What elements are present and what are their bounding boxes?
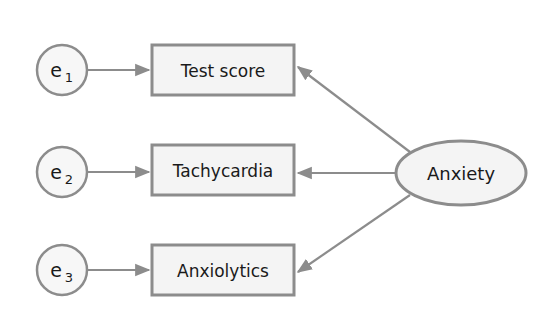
svg-text:e: e xyxy=(50,161,62,183)
svg-text:1: 1 xyxy=(65,70,73,85)
svg-text:Anxiolytics: Anxiolytics xyxy=(177,261,269,281)
svg-text:3: 3 xyxy=(65,270,73,285)
svg-text:Test score: Test score xyxy=(180,61,266,81)
error-node-e1: e 1 xyxy=(37,45,87,95)
error-node-e3: e 3 xyxy=(37,245,87,295)
error-node-e2: e 2 xyxy=(37,147,87,197)
sem-diagram: e 1 e 2 e 3 Test score Tachycardia Anxio… xyxy=(0,0,554,321)
svg-text:2: 2 xyxy=(65,172,73,187)
arrow-anxiety-to-anxiolytics xyxy=(298,195,410,272)
arrow-anxiety-to-test-score xyxy=(298,67,410,152)
svg-text:Anxiety: Anxiety xyxy=(427,163,496,184)
svg-text:Tachycardia: Tachycardia xyxy=(172,161,274,181)
indicator-tachycardia: Tachycardia xyxy=(152,145,294,195)
indicator-anxiolytics: Anxiolytics xyxy=(152,245,294,295)
svg-text:e: e xyxy=(50,59,62,81)
latent-anxiety: Anxiety xyxy=(396,141,526,205)
svg-text:e: e xyxy=(50,259,62,281)
indicator-test-score: Test score xyxy=(152,45,294,95)
